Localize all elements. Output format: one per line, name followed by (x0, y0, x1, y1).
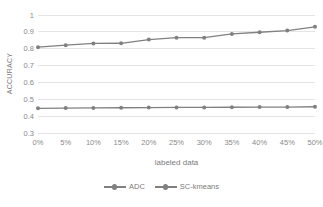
data-point (313, 24, 317, 28)
data-point (285, 28, 289, 32)
legend-item-adc[interactable]: ADC (104, 182, 145, 191)
data-point (36, 106, 40, 110)
legend-item-sc-kmeans[interactable]: SC-kmeans (155, 182, 219, 191)
x-axis-title: labeled data (38, 158, 315, 167)
y-tick-label: 0.7 (24, 61, 34, 70)
x-tick-label: 25% (169, 138, 184, 147)
data-point (64, 106, 68, 110)
legend-marker-icon (155, 183, 177, 191)
data-point (91, 41, 95, 45)
y-tick-label: 0.6 (24, 78, 34, 87)
y-tick-label: 0.4 (24, 112, 34, 121)
legend-item-label: ADC (129, 182, 145, 191)
data-point (202, 35, 206, 39)
data-point (258, 105, 262, 109)
y-tick-label: 0.8 (24, 44, 34, 53)
data-point (258, 30, 262, 34)
y-axis-title-label: ACCURACY (7, 53, 14, 95)
data-point (175, 105, 179, 109)
x-tick-label: 5% (60, 138, 71, 147)
x-tick-label: 45% (280, 138, 295, 147)
legend-marker-icon (104, 183, 126, 191)
data-point (147, 105, 151, 109)
x-tick-label: 20% (141, 138, 156, 147)
x-tick-label: 0% (33, 138, 44, 147)
gridline (38, 133, 315, 134)
y-tick-label: 1 (30, 10, 34, 19)
data-point (64, 43, 68, 47)
line-chart: ACCURACY 10.90.80.70.60.50.40.3 0%5%10%1… (0, 0, 323, 207)
data-point (175, 35, 179, 39)
data-point (230, 105, 234, 109)
data-point (91, 105, 95, 109)
data-point (202, 105, 206, 109)
x-tick-label: 30% (197, 138, 212, 147)
legend-item-label: SC-kmeans (180, 182, 219, 191)
y-tick-label: 0.9 (24, 27, 34, 36)
data-point (147, 37, 151, 41)
data-point (119, 41, 123, 45)
x-axis-title-label: labeled data (155, 158, 199, 167)
x-tick-label: 50% (307, 138, 322, 147)
data-point (230, 31, 234, 35)
x-tick-label: 10% (86, 138, 101, 147)
x-tick-label: 35% (224, 138, 239, 147)
x-tick-label: 15% (114, 138, 129, 147)
series-sc-kmeans (36, 104, 317, 110)
data-point (119, 105, 123, 109)
series-adc (36, 24, 317, 48)
y-tick-label: 0.3 (24, 129, 34, 138)
series-plot (38, 15, 315, 134)
y-axis-title: ACCURACY (3, 0, 17, 147)
chart-legend: ADCSC-kmeans (0, 182, 323, 191)
data-point (36, 45, 40, 49)
data-point (313, 104, 317, 108)
plot-area: 10.90.80.70.60.50.40.3 0%5%10%15%20%25%3… (38, 15, 315, 134)
y-tick-label: 0.5 (24, 95, 34, 104)
x-tick-label: 40% (252, 138, 267, 147)
data-point (285, 105, 289, 109)
